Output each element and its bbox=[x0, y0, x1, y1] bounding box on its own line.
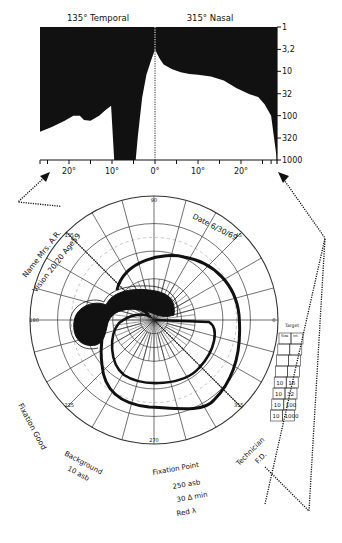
profile-x-tick-label: 20° bbox=[62, 167, 76, 176]
arrow-left-head bbox=[40, 172, 50, 182]
target-table-column: Int. bbox=[293, 334, 299, 338]
target-table-value: 16 bbox=[288, 380, 295, 386]
threshold-profile: 20°10°0°10°20°13,210321003201000 bbox=[40, 23, 302, 176]
target-table-value: 10 bbox=[276, 380, 283, 386]
profile-x-tick-label: 0° bbox=[150, 167, 159, 176]
profile-title-nasal: 315° Nasal bbox=[187, 13, 234, 23]
arrow-right-line bbox=[265, 177, 325, 504]
polar-meridian-label: 0 bbox=[272, 317, 275, 323]
profile-y-tick-label: 100 bbox=[282, 112, 297, 121]
fixation-quality: Fixation Good bbox=[16, 402, 48, 452]
target-table-value: 10 bbox=[274, 402, 281, 408]
target-table-value: 10 bbox=[273, 413, 280, 419]
target-table-column: Size bbox=[281, 334, 288, 338]
profile-x-tick-label: 10° bbox=[191, 167, 205, 176]
profile-x-tick-label: 10° bbox=[105, 167, 119, 176]
profile-y-tick-label: 1000 bbox=[282, 156, 302, 165]
polar-meridian-inner bbox=[143, 320, 154, 360]
fixation-point-luminance: 250 asb bbox=[172, 478, 201, 491]
fixation-point-label: Fixation Point bbox=[152, 461, 200, 477]
polar-field-chart: 90451800225270315135 bbox=[29, 196, 278, 444]
profile-y-tick-label: 1 bbox=[282, 23, 287, 32]
profile-title-temporal: 135° Temporal bbox=[67, 13, 129, 23]
technician-name: F.D. bbox=[254, 451, 269, 466]
target-table-value: 32 bbox=[287, 391, 294, 397]
polar-meridian-label: 180 bbox=[29, 317, 39, 323]
target-table-value: 100 bbox=[286, 402, 297, 408]
profile-y-tick-label: 32 bbox=[282, 90, 292, 99]
target-table-header: Target bbox=[284, 323, 299, 328]
target-table-cell bbox=[289, 355, 301, 366]
profile-y-tick-label: 320 bbox=[282, 134, 297, 143]
fixation-point-size: 30 Δ min bbox=[176, 491, 208, 504]
target-table-cell bbox=[278, 344, 290, 355]
polar-meridian-label: 225 bbox=[64, 402, 74, 408]
target-table-cell bbox=[287, 366, 299, 377]
profile-y-tick-label: 10 bbox=[282, 67, 292, 76]
profile-x-tick-label: 20° bbox=[234, 167, 248, 176]
visual-field-chart: 135° Temporal 315° Nasal 20°10°0°10°20°1… bbox=[0, 0, 342, 543]
target-table: TargetSizeInt.1016103210100101000 bbox=[271, 323, 303, 421]
profile-y-tick-label: 3,2 bbox=[282, 45, 295, 54]
target-table-value: 1000 bbox=[285, 413, 299, 419]
exam-date: Date 6/30/69 bbox=[191, 212, 239, 242]
polar-meridian-label: 315 bbox=[234, 402, 244, 408]
target-table-cell bbox=[277, 355, 289, 366]
isopter-inner bbox=[112, 315, 215, 384]
target-table-value: 10 bbox=[275, 391, 282, 397]
polar-meridian-label: 270 bbox=[149, 437, 159, 443]
fixation-point-color: Red λ bbox=[176, 507, 197, 518]
target-table-cell bbox=[275, 366, 287, 377]
arrow-left-line bbox=[18, 176, 60, 206]
arrow-right-head bbox=[278, 172, 289, 183]
polar-meridian-label: 90 bbox=[151, 197, 157, 203]
